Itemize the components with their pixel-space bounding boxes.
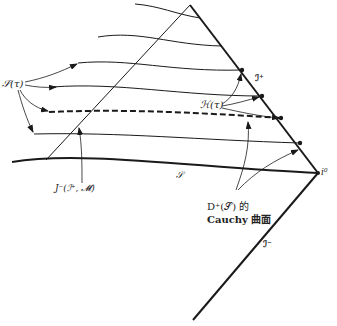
arrow-d-plus-1 (236, 122, 248, 190)
label-script-s: 𝒮 (176, 171, 183, 180)
label-scri-minus: ℐ⁻ (263, 240, 272, 249)
initial-surface-s (12, 158, 318, 173)
label-h-tau: ℋ(τ) (200, 100, 223, 110)
dot-1 (240, 68, 244, 72)
dot-2 (260, 94, 264, 98)
arrow-h-tau-1 (222, 74, 241, 104)
scri-minus-line (193, 173, 318, 320)
arrow-s-tau-1 (25, 64, 77, 82)
surface-1 (78, 62, 242, 70)
label-j-minus: J⁻(ℐ⁺, 𝓜̄) (55, 184, 95, 193)
arrow-s-tau-4 (18, 90, 33, 132)
label-scri-plus: ℐ⁺ (255, 74, 264, 83)
dot-3 (279, 116, 283, 120)
arrow-j-minus (79, 128, 82, 183)
dot-4 (298, 141, 302, 145)
surface-3 (34, 134, 300, 143)
label-d-plus: D⁺(𝒮) 的 (207, 202, 249, 212)
arrow-s-tau-2 (25, 85, 56, 87)
scri-plus-line (190, 5, 318, 173)
label-i-zero: i⁰ (321, 168, 328, 177)
label-s-tau: 𝒮(τ) (2, 79, 23, 89)
surface-dashed-cauchy (49, 111, 281, 118)
label-cauchy-surface: Cauchy 曲面 (207, 215, 271, 225)
arrow-s-tau-3 (20, 90, 48, 111)
arrow-h-tau-2 (222, 97, 259, 106)
dot-i0 (316, 171, 320, 175)
surface-2 (52, 86, 262, 96)
penrose-diagram (0, 0, 337, 326)
